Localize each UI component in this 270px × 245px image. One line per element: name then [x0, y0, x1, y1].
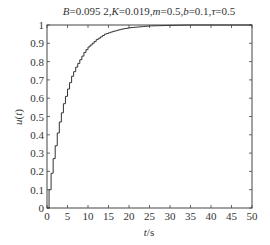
x-tick-label: 35	[185, 210, 197, 222]
x-tick-label: 25	[144, 210, 156, 222]
plot-border	[47, 25, 252, 208]
x-tick-label: 45	[226, 210, 238, 222]
x-tick-label: 10	[83, 210, 95, 222]
plot-area	[47, 25, 252, 208]
y-tick-label: 1	[39, 19, 45, 31]
y-tick-label: 0	[39, 202, 45, 214]
y-tick-label: 0.4	[30, 129, 44, 141]
chart: B=0.095 2,K=0.019,m=0.5,b=0.1,τ=0.5 0510…	[0, 0, 270, 245]
x-tick-label: 50	[247, 210, 259, 222]
y-axis-label: u(t)	[12, 109, 25, 125]
y-tick-label: 0.5	[30, 111, 44, 123]
y-tick-label: 0.3	[30, 147, 44, 159]
x-tick-label: 20	[124, 210, 136, 222]
y-tick-label: 0.8	[30, 56, 44, 68]
x-tick-label: 40	[206, 210, 218, 222]
y-tick-label: 0.2	[30, 165, 44, 177]
x-tick-label: 15	[103, 210, 115, 222]
x-tick-label: 5	[65, 210, 71, 222]
x-tick-label: 0	[44, 210, 50, 222]
x-tick-label: 30	[165, 210, 177, 222]
y-tick-label: 0.7	[30, 74, 44, 86]
y-tick-label: 0.6	[30, 92, 44, 104]
y-tick-label: 0.9	[30, 37, 44, 49]
x-axis-label: t/s	[144, 226, 154, 238]
chart-title: B=0.095 2,K=0.019,m=0.5,b=0.1,τ=0.5	[63, 5, 236, 17]
y-tick-label: 0.1	[30, 184, 44, 196]
